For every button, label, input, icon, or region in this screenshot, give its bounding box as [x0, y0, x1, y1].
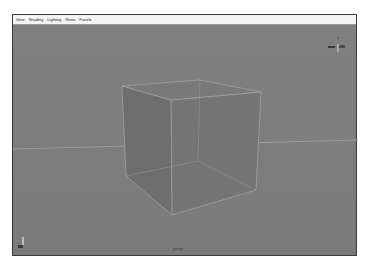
scene-canvas[interactable] — [13, 25, 358, 257]
menu-view[interactable]: View — [16, 17, 25, 22]
menu-panels[interactable]: Panels — [79, 17, 91, 22]
cube-face-left — [122, 86, 172, 215]
menu-shading[interactable]: Shading — [29, 17, 44, 22]
view-cube-y-label: Y — [337, 37, 339, 41]
cube-face-right — [171, 92, 261, 215]
axis-indicator-icon — [18, 237, 26, 249]
panel-menubar: View Shading Lighting Show Panels — [13, 15, 356, 25]
view-cube-right-face — [339, 45, 345, 48]
viewport-panel: View Shading Lighting Show Panels Y — [12, 14, 357, 256]
camera-label: persp — [173, 246, 183, 251]
menu-show[interactable]: Show — [65, 17, 75, 22]
3d-viewport[interactable]: Y persp — [13, 25, 356, 255]
view-cube-gizmo[interactable]: Y — [328, 37, 348, 57]
menu-lighting[interactable]: Lighting — [47, 17, 61, 22]
view-cube-left-face — [328, 46, 335, 48]
